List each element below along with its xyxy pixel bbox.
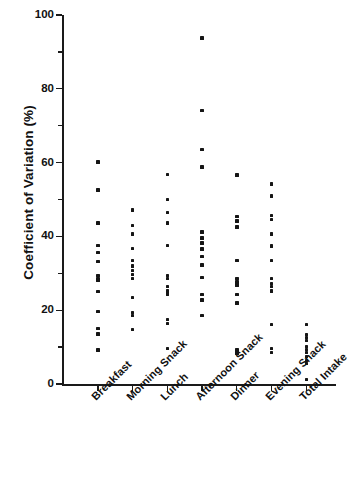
data-point [166, 211, 169, 214]
data-point [200, 276, 203, 279]
data-point [200, 148, 203, 151]
data-point [96, 348, 99, 351]
data-point [270, 232, 273, 235]
y-tick-0 [56, 383, 62, 384]
data-point [131, 277, 134, 280]
data-point [270, 194, 273, 197]
y-tick-20 [56, 310, 62, 311]
data-point [235, 225, 238, 228]
data-point [270, 289, 273, 292]
y-tick-minor-50 [58, 199, 62, 200]
data-point [270, 214, 273, 217]
data-point [235, 283, 238, 286]
data-point [96, 251, 99, 254]
y-tick-label-60: 60 [41, 156, 54, 168]
y-tick-40 [56, 236, 62, 237]
data-point [131, 224, 134, 227]
x-axis-label-lunch: Lunch [158, 370, 190, 402]
data-point [235, 173, 238, 176]
data-point [270, 347, 273, 350]
data-point [305, 362, 308, 365]
data-point [200, 255, 203, 258]
data-point [96, 332, 99, 335]
y-tick-minor-30 [58, 273, 62, 274]
data-point [270, 277, 273, 280]
y-tick-label-0: 0 [48, 377, 54, 389]
data-point [96, 188, 99, 191]
data-point [166, 173, 169, 176]
data-point [200, 298, 203, 301]
data-point [131, 273, 134, 276]
data-point [235, 293, 238, 296]
data-point [200, 293, 203, 296]
data-point [166, 285, 169, 288]
data-point [270, 218, 273, 221]
data-point [131, 296, 134, 299]
y-axis-line [62, 15, 64, 385]
data-point [235, 215, 238, 218]
data-point [235, 301, 238, 304]
data-point [270, 259, 273, 262]
data-point [166, 347, 169, 350]
data-point [200, 36, 203, 39]
data-point [200, 241, 203, 244]
data-point [131, 247, 134, 250]
data-point [166, 244, 169, 247]
data-point [200, 109, 203, 112]
data-point [96, 327, 99, 330]
data-point [96, 310, 99, 313]
data-point [270, 351, 273, 354]
data-point [131, 208, 134, 211]
y-tick-label-80: 80 [41, 82, 54, 94]
data-point [131, 232, 134, 235]
data-point [166, 277, 169, 280]
data-point [96, 260, 99, 263]
data-point [166, 292, 169, 295]
data-point [200, 314, 203, 317]
y-tick-100 [56, 14, 62, 15]
data-point [270, 244, 273, 247]
y-tick-minor-10 [58, 346, 62, 347]
data-point [166, 322, 169, 325]
data-point [235, 351, 238, 354]
data-point [305, 355, 308, 358]
x-axis-label-dinner: Dinner [228, 369, 262, 403]
data-point [96, 221, 99, 224]
y-tick-label-40: 40 [41, 229, 54, 241]
data-point [131, 328, 134, 331]
y-tick-label-100: 100 [35, 8, 54, 20]
data-point [270, 182, 273, 185]
data-point [96, 279, 99, 282]
data-point [131, 314, 134, 317]
data-point [305, 378, 308, 381]
data-point [270, 285, 273, 288]
data-point [96, 244, 99, 247]
data-point [200, 165, 203, 168]
x-axis-label-morning-snack: Morning Snack [124, 337, 189, 402]
data-point [166, 198, 169, 201]
data-point [305, 339, 308, 342]
y-tick-60 [56, 162, 62, 163]
data-point [166, 318, 169, 321]
data-point [305, 323, 308, 326]
plot-area: 020406080100 BreakfastMorning SnackLunch… [0, 0, 353, 488]
data-point [166, 221, 169, 224]
data-point [96, 160, 99, 163]
scatter-plot-figure: Coefficient of Variation (%) 02040608010… [0, 0, 353, 488]
data-point [200, 247, 203, 250]
y-tick-80 [56, 88, 62, 89]
y-tick-minor-70 [58, 125, 62, 126]
data-point [96, 290, 99, 293]
data-point [200, 263, 203, 266]
data-point [270, 323, 273, 326]
data-point [131, 264, 134, 267]
data-point [200, 236, 203, 239]
data-point [131, 259, 134, 262]
y-tick-minor-90 [58, 51, 62, 52]
data-point [131, 269, 134, 272]
data-point [235, 259, 238, 262]
data-point [235, 219, 238, 222]
y-tick-label-20: 20 [41, 303, 54, 315]
data-point [200, 230, 203, 233]
data-point [305, 351, 308, 354]
